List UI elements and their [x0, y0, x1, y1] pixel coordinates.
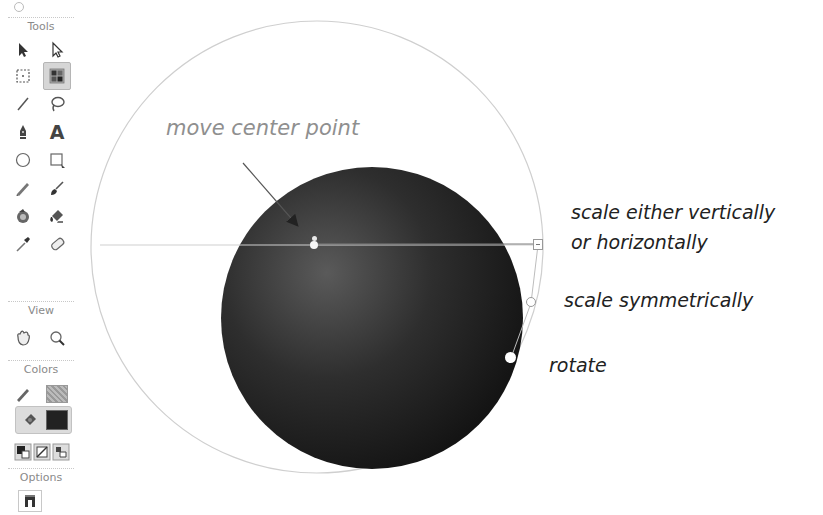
snap-to-objects-button[interactable]	[18, 490, 42, 512]
divider	[8, 17, 74, 18]
center-point-handle[interactable]	[310, 236, 318, 250]
arrow-icon	[536, 244, 540, 245]
no-color-button[interactable]	[33, 440, 51, 464]
stroke-swatch	[46, 385, 68, 403]
center-dot	[310, 241, 318, 249]
brush-icon	[48, 179, 66, 197]
magnifier-icon	[48, 329, 66, 347]
pen-icon	[14, 123, 32, 141]
divider	[8, 301, 74, 302]
line-icon	[14, 95, 32, 113]
selection-tool[interactable]	[10, 38, 36, 62]
label-scale-one-axis-2: or horizontally	[571, 231, 708, 253]
label-rotate: rotate	[549, 354, 607, 376]
ink-bottle-tool[interactable]	[10, 204, 36, 228]
eyedropper-icon	[14, 235, 32, 253]
eyedropper-tool[interactable]	[10, 232, 36, 256]
divider	[8, 360, 74, 361]
stage[interactable]: move center point scale either verticall…	[82, 0, 823, 515]
section-title-colors: Colors	[0, 363, 82, 376]
fill-color-bucket[interactable]	[17, 408, 43, 432]
fill-swatch	[46, 410, 68, 430]
scale-symmetric-handle[interactable]	[526, 297, 536, 307]
paint-bucket-icon	[48, 207, 66, 225]
section-title-tools: Tools	[0, 20, 82, 33]
stroke-color-swatch[interactable]	[44, 382, 70, 406]
free-transform-tool[interactable]	[10, 64, 36, 88]
panel-grip[interactable]	[14, 2, 24, 12]
eraser-icon	[48, 235, 66, 253]
eraser-tool[interactable]	[44, 232, 70, 256]
black-white-button[interactable]	[14, 440, 32, 464]
no-color-icon	[33, 443, 51, 461]
pen-tool[interactable]	[10, 120, 36, 144]
black-white-icon	[14, 443, 32, 461]
stage-graphics	[82, 0, 823, 515]
hand-tool[interactable]	[10, 326, 36, 350]
fill-color-swatch[interactable]	[44, 408, 70, 432]
pencil-tool[interactable]	[10, 176, 36, 200]
lasso-icon	[48, 95, 66, 113]
label-move-center-point: move center point	[166, 116, 359, 140]
pencil-icon	[14, 385, 32, 403]
section-title-view: View	[0, 304, 82, 317]
line-tool[interactable]	[10, 92, 36, 116]
stroke-color-pencil[interactable]	[10, 382, 36, 406]
gradient-transform-icon	[48, 67, 66, 85]
magnet-icon	[21, 492, 39, 510]
white-arrow-icon	[48, 41, 66, 59]
hand-icon	[14, 329, 32, 347]
free-transform-icon	[14, 67, 32, 85]
zoom-tool[interactable]	[44, 326, 70, 350]
rectangle-tool[interactable]	[44, 148, 70, 172]
black-arrow-icon	[14, 41, 32, 59]
text-tool[interactable]: A	[44, 120, 70, 144]
tools-panel: Tools A	[0, 0, 82, 515]
section-title-options: Options	[0, 471, 82, 484]
paint-bucket-icon	[21, 411, 39, 429]
ink-bottle-icon	[14, 207, 32, 225]
pencil-icon	[14, 179, 32, 197]
brush-tool[interactable]	[44, 176, 70, 200]
rectangle-icon	[48, 151, 66, 169]
swap-colors-button[interactable]	[52, 440, 70, 464]
lasso-tool[interactable]	[44, 92, 70, 116]
label-scale-one-axis-1: scale either vertically	[571, 201, 775, 223]
scale-one-axis-handle[interactable]	[533, 239, 543, 250]
label-scale-symmetric: scale symmetrically	[564, 289, 753, 311]
divider	[8, 468, 74, 469]
text-icon: A	[50, 121, 65, 143]
subselection-tool[interactable]	[44, 38, 70, 62]
swap-colors-icon	[52, 443, 70, 461]
oval-tool[interactable]	[10, 148, 36, 172]
oval-icon	[14, 151, 32, 169]
paint-bucket-tool[interactable]	[44, 204, 70, 228]
gradient-filled-circle	[221, 167, 523, 469]
rotate-handle[interactable]	[505, 352, 516, 363]
gradient-transform-tool[interactable]	[43, 62, 71, 90]
